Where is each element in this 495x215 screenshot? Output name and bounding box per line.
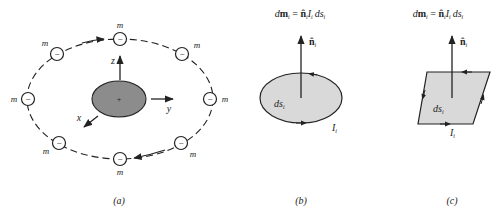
svg-text:m: m bbox=[222, 94, 229, 104]
normal-vector-label: n̂i bbox=[309, 36, 317, 48]
panel-c-caption: (c) bbox=[446, 195, 458, 207]
svg-text:m: m bbox=[117, 20, 124, 30]
x-axis-arrow bbox=[84, 116, 98, 127]
svg-text:m: m bbox=[117, 167, 124, 177]
y-axis-label: y bbox=[166, 103, 172, 114]
electron-top: − m bbox=[114, 20, 127, 46]
svg-text:m: m bbox=[11, 94, 18, 104]
normal-vector-label: n̂i bbox=[460, 36, 468, 48]
electron-top-left: − m bbox=[42, 38, 64, 61]
svg-text:m: m bbox=[190, 149, 197, 159]
x-axis-label: x bbox=[76, 112, 82, 123]
panel-b-caption: (b) bbox=[295, 195, 307, 207]
nucleus-plus-sign: + bbox=[117, 95, 122, 104]
svg-text:−: − bbox=[54, 49, 59, 59]
svg-text:−: − bbox=[178, 138, 183, 148]
z-axis-label: z bbox=[110, 55, 115, 66]
panel-a: + z y x − m − m − m − m − bbox=[11, 20, 229, 207]
panel-b-equation: dmi = n̂iIidsi bbox=[275, 8, 326, 20]
magnetic-moment-figure: + z y x − m − m − m − m − bbox=[0, 0, 495, 215]
electron-left: − m bbox=[11, 93, 35, 106]
orbit-arrow-bottom bbox=[134, 150, 165, 158]
svg-text:m: m bbox=[42, 38, 49, 48]
svg-text:−: − bbox=[117, 34, 122, 44]
orbit-arrow-top bbox=[82, 39, 104, 43]
panel-c-equation: dmi = n̂iIidsi bbox=[413, 8, 464, 20]
electron-bottom: − m bbox=[114, 153, 127, 178]
svg-text:m: m bbox=[43, 146, 50, 156]
electron-bottom-left: − m bbox=[43, 137, 66, 157]
svg-text:−: − bbox=[207, 94, 212, 104]
panel-b: dmi = n̂iIidsi n̂i dsi Ii (b) bbox=[260, 8, 342, 207]
electron-top-right: − m bbox=[176, 40, 201, 61]
svg-text:m: m bbox=[194, 40, 201, 50]
svg-text:−: − bbox=[25, 94, 30, 104]
svg-text:−: − bbox=[117, 154, 122, 164]
panel-c: dmi = n̂iIidsi n̂i dsi Ii (c) bbox=[413, 8, 490, 207]
current-label: Ii bbox=[449, 127, 455, 139]
svg-text:−: − bbox=[179, 49, 184, 59]
current-loop-parallelogram bbox=[418, 72, 490, 124]
panel-a-caption: (a) bbox=[113, 195, 125, 207]
svg-text:−: − bbox=[56, 138, 61, 148]
current-label: Ii bbox=[331, 122, 337, 134]
electron-right: − m bbox=[204, 93, 229, 106]
electron-bottom-right: − m bbox=[175, 137, 197, 160]
